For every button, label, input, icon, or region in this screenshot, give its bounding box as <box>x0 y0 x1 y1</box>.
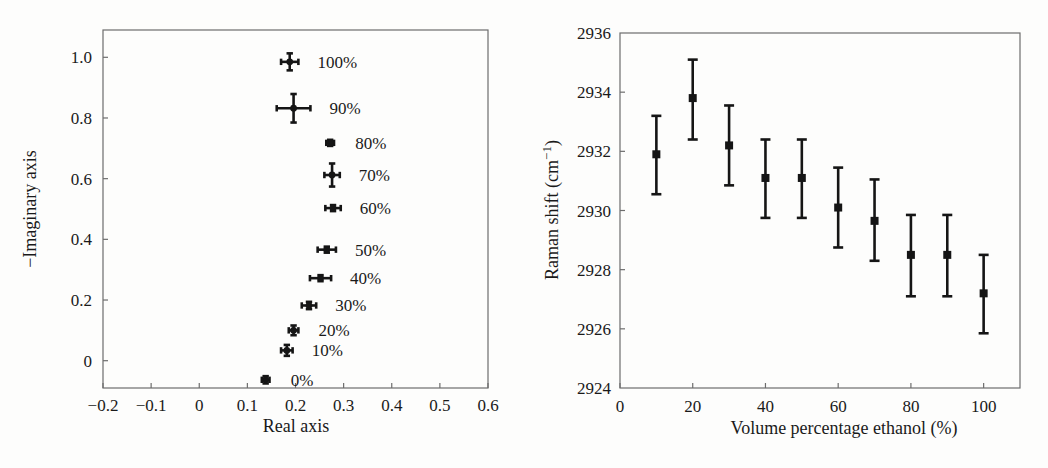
point-marker <box>834 204 842 212</box>
data-point <box>724 105 734 185</box>
point-marker <box>290 327 297 334</box>
data-point <box>262 376 270 383</box>
point-marker <box>329 172 336 179</box>
point-label: 100% <box>317 53 357 72</box>
point-label: 0% <box>291 371 314 390</box>
point-marker <box>798 174 806 182</box>
data-point <box>281 53 298 70</box>
data-point <box>651 116 661 194</box>
point-label: 90% <box>329 99 360 118</box>
y-tick-label: 0.2 <box>71 291 92 310</box>
x-tick-label: 60 <box>830 397 847 416</box>
point-marker <box>327 139 334 146</box>
point-label: 30% <box>335 296 366 315</box>
x-tick-label: 0.2 <box>285 396 306 415</box>
data-point <box>277 94 311 123</box>
point-marker <box>306 302 313 309</box>
point-label: 60% <box>360 199 391 218</box>
point-label: 20% <box>319 321 350 340</box>
y-tick-label: 2928 <box>577 261 611 280</box>
data-point <box>325 205 340 212</box>
point-marker <box>323 246 330 253</box>
y-axis-title: Raman shift (cm−1) <box>539 140 563 280</box>
data-point <box>310 275 331 282</box>
point-label: 70% <box>359 166 390 185</box>
x-axis-title: Volume percentage ethanol (%) <box>730 418 957 439</box>
nyquist-axes: −0.2−0.100.10.20.30.40.50.600.20.40.60.8… <box>71 30 499 415</box>
point-marker <box>652 150 660 158</box>
raman-plot-svg: 0204060801002924292629282930293229342936… <box>524 0 1048 468</box>
y-tick-label: 2936 <box>577 24 611 43</box>
raman-shift-plot: 0204060801002924292629282930293229342936… <box>524 0 1048 468</box>
point-label: 40% <box>350 269 381 288</box>
point-marker <box>725 141 733 149</box>
raman-data-layer <box>651 60 988 334</box>
x-axis-title: Real axis <box>263 416 329 436</box>
point-label: 50% <box>355 241 386 260</box>
data-point <box>326 139 334 146</box>
point-marker <box>290 105 297 112</box>
point-marker <box>317 275 324 282</box>
point-marker <box>262 376 269 383</box>
x-tick-label: −0.1 <box>136 396 167 415</box>
x-tick-label: 0.6 <box>477 396 498 415</box>
data-point <box>979 255 989 333</box>
x-tick-label: 40 <box>757 397 774 416</box>
x-tick-label: 80 <box>902 397 919 416</box>
x-tick-label: 0.3 <box>333 396 354 415</box>
y-tick-label: 2934 <box>577 83 612 102</box>
x-tick-label: 0 <box>195 396 204 415</box>
impedance-nyquist-plot: −0.2−0.100.10.20.30.40.50.600.20.40.60.8… <box>0 0 524 468</box>
x-tick-label: 0.4 <box>381 396 403 415</box>
data-point <box>760 140 770 218</box>
point-marker <box>907 251 915 259</box>
point-label: 10% <box>312 341 343 360</box>
x-tick-label: 0.5 <box>429 396 450 415</box>
point-marker <box>286 58 293 65</box>
plot-frame <box>620 33 1020 388</box>
x-tick-label: −0.2 <box>88 396 119 415</box>
x-tick-label: 100 <box>971 397 997 416</box>
y-tick-label: 2926 <box>577 320 611 339</box>
y-tick-label: 2930 <box>577 202 611 221</box>
nyquist-plot-svg: −0.2−0.100.10.20.30.40.50.600.20.40.60.8… <box>0 0 524 468</box>
point-marker <box>871 217 879 225</box>
point-marker <box>689 94 697 102</box>
point-marker <box>943 251 951 259</box>
y-axis-title: −Imaginary axis <box>20 150 40 268</box>
data-point <box>688 60 698 140</box>
data-point <box>870 179 880 260</box>
y-tick-label: 2924 <box>577 379 612 398</box>
data-point <box>797 140 807 218</box>
data-point <box>906 215 916 296</box>
data-point <box>318 246 336 253</box>
point-marker <box>283 347 290 354</box>
y-tick-label: 0.8 <box>71 109 92 128</box>
y-tick-label: 1.0 <box>71 48 92 67</box>
point-marker <box>980 289 988 297</box>
x-tick-label: 0.1 <box>237 396 258 415</box>
data-point <box>833 168 843 248</box>
y-tick-label: 0.6 <box>71 170 92 189</box>
x-tick-label: 0 <box>616 397 625 416</box>
data-point <box>942 215 952 296</box>
data-point <box>324 163 339 186</box>
y-tick-label: 2932 <box>577 142 611 161</box>
figure-container: −0.2−0.100.10.20.30.40.50.600.20.40.60.8… <box>0 0 1048 468</box>
nyquist-data-layer: 100%90%80%70%60%50%40%30%20%10%0% <box>262 53 391 390</box>
data-point <box>281 345 293 356</box>
y-tick-label: 0 <box>84 352 93 371</box>
y-tick-label: 0.4 <box>71 230 93 249</box>
data-point <box>302 302 316 309</box>
point-marker <box>330 205 337 212</box>
point-marker <box>761 174 769 182</box>
x-tick-label: 20 <box>684 397 701 416</box>
raman-axes: 0204060801002924292629282930293229342936 <box>577 24 1020 416</box>
point-label: 80% <box>355 134 386 153</box>
data-point <box>289 326 299 336</box>
